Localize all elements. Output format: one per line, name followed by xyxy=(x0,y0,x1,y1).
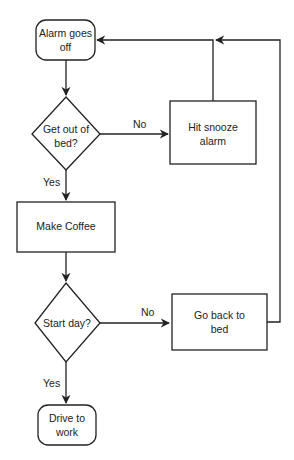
node-back-to-bed-text-2: bed xyxy=(211,323,229,335)
node-alarm-text-2: off xyxy=(60,41,72,53)
node-start-day: Start day? xyxy=(35,283,100,362)
node-get-out-of-bed: Get out of bed? xyxy=(32,97,100,170)
edge-label-no-1: No xyxy=(133,118,147,130)
edge-back-to-bed-to-alarm xyxy=(216,40,280,322)
node-hit-snooze-alarm: Hit snooze alarm xyxy=(170,101,256,164)
node-drive-text-1: Drive to xyxy=(49,412,85,424)
edge-snooze-to-alarm xyxy=(97,40,213,101)
node-back-to-bed-text-1: Go back to xyxy=(194,309,245,321)
node-alarm-goes-off: Alarm goes off xyxy=(36,20,95,60)
node-snooze-text-1: Hit snooze xyxy=(188,121,238,133)
node-drive-text-2: work xyxy=(55,426,79,438)
node-start-day-text: Start day? xyxy=(43,317,91,329)
node-coffee-text: Make Coffee xyxy=(36,220,95,232)
node-go-back-to-bed: Go back to bed xyxy=(172,294,267,350)
node-drive-to-work: Drive to work xyxy=(38,405,96,445)
node-make-coffee: Make Coffee xyxy=(17,202,115,252)
node-get-out-text-2: bed? xyxy=(54,137,78,149)
node-alarm-text-1: Alarm goes xyxy=(39,27,92,39)
node-snooze-text-2: alarm xyxy=(200,135,227,147)
node-get-out-text-1: Get out of xyxy=(43,123,89,135)
edge-label-no-2: No xyxy=(141,306,155,318)
edge-label-yes-1: Yes xyxy=(43,176,60,188)
edge-label-yes-2: Yes xyxy=(43,377,60,389)
flowchart-canvas: Alarm goes off Get out of bed? No Hit sn… xyxy=(0,0,294,460)
